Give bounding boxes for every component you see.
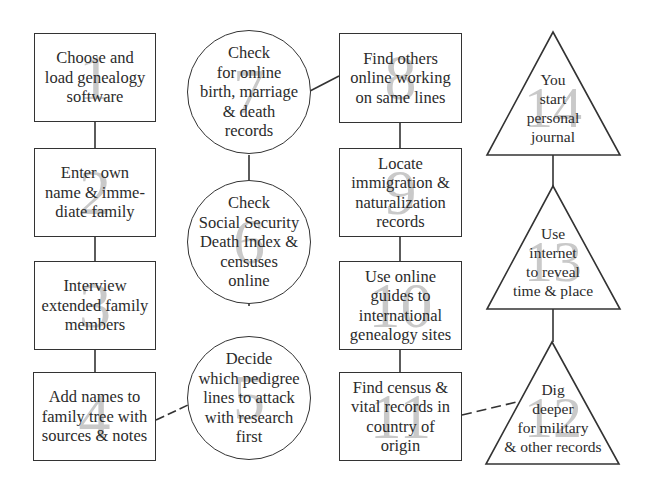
node-label: Decide which pedigree lines to attack wi… [198, 349, 299, 447]
node-11-box: 11 Find census & vital records in countr… [339, 372, 462, 461]
node-5-circle: 5 Decide which pedigree lines to attack … [187, 336, 311, 460]
node-14-triangle: 14 You start personal journal [497, 62, 609, 154]
node-8-box: 8 Find others online working on same lin… [339, 33, 462, 123]
node-6-circle: 6 Check Social Security Death Index & ce… [187, 180, 311, 304]
node-13-triangle: 13 Use internet to reveal time & place [497, 218, 609, 306]
node-label: Use internet to reveal time & place [513, 224, 593, 300]
node-2-box: 2 Enter own name & imme- diate family [34, 148, 156, 237]
node-label: Add names to family tree with sources & … [42, 387, 147, 446]
node-label: You start personal journal [527, 70, 580, 146]
edge-7-8 [310, 76, 339, 91]
edge-4-5 [156, 405, 188, 420]
node-4-box: 4 Add names to family tree with sources … [33, 372, 156, 461]
node-1-box: 1 Choose and load genealogy software [34, 33, 156, 122]
node-label: Use online guides to international genea… [350, 267, 451, 345]
node-label: Check Social Security Death Index & cens… [199, 193, 299, 291]
node-label: Choose and load genealogy software [45, 48, 145, 107]
node-label: Locate immigration & naturalization reco… [351, 154, 450, 232]
node-label: Dig deeper for military & other records [504, 380, 601, 456]
node-12-triangle: 12 Dig deeper for military & other recor… [486, 374, 620, 462]
node-label: Enter own name & imme- diate family [45, 163, 145, 222]
node-7-circle: 7 Check for online birth, marriage & dea… [187, 30, 311, 154]
node-10-box: 10 Use online guides to international ge… [339, 261, 462, 350]
node-9-box: 9 Locate immigration & naturalization re… [339, 148, 462, 237]
node-label: Interview extended family members [42, 276, 149, 335]
node-3-box: 3 Interview extended family members [34, 261, 156, 350]
node-label: Find others online working on same lines [350, 49, 450, 108]
node-label: Check for online birth, marriage & death… [200, 43, 298, 141]
node-label: Find census & vital records in country o… [351, 378, 450, 456]
